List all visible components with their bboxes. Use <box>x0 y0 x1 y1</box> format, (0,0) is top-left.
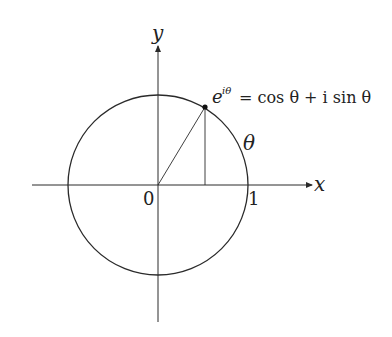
radius-line <box>158 107 205 185</box>
formula-exponent: iθ <box>222 85 231 96</box>
y-axis-label: y <box>151 21 164 45</box>
unit-circle-diagram: y x 0 1 θ e iθ = cos θ + i sin θ <box>0 0 392 337</box>
x-axis-label: x <box>314 172 325 196</box>
euler-formula: e iθ = cos θ + i sin θ <box>212 85 371 107</box>
formula-rhs: = cos θ + i sin θ <box>239 88 371 107</box>
angle-theta-label: θ <box>243 131 255 155</box>
unit-label: 1 <box>248 188 259 209</box>
origin-label: 0 <box>143 188 154 209</box>
point-on-circle <box>202 104 207 109</box>
